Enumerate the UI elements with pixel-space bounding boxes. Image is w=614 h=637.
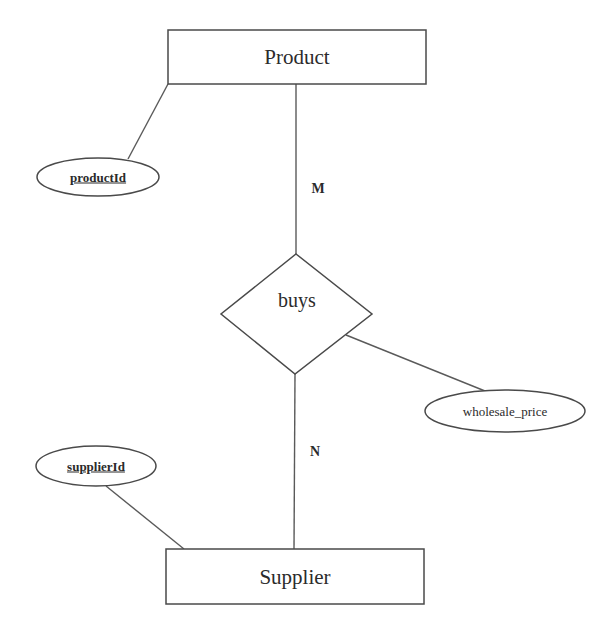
connector-productId-product [128, 84, 168, 159]
connector-supplierId-supplier [106, 486, 184, 549]
relationship-buys-diamond [221, 254, 372, 374]
er-diagram-canvas [0, 0, 614, 637]
entity-supplier-label: Supplier [259, 567, 330, 588]
cardinality-n-label: N [310, 445, 320, 459]
attribute-productId-label: productId [70, 171, 126, 184]
connector-buys-supplier [294, 374, 295, 549]
relationship-buys-label: buys [278, 290, 316, 310]
entity-product-label: Product [264, 47, 329, 68]
diagram-shapes [36, 30, 585, 604]
cardinality-m-label: M [311, 182, 324, 196]
connector-buys-wholesale_price [346, 335, 485, 391]
attribute-wholesale-price-label: wholesale_price [463, 405, 547, 418]
attribute-supplierId-label: supplierId [67, 460, 125, 473]
